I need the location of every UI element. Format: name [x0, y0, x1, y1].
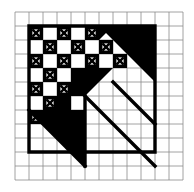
cross-cell: [87, 56, 98, 67]
figure-canvas: [0, 0, 194, 192]
cross-cell: [59, 56, 70, 67]
inner-diagonal-line: [85, 96, 155, 166]
cross-cell: [45, 42, 56, 53]
solid-cell: [57, 96, 71, 110]
solid-cell: [71, 68, 85, 82]
cross-cell: [73, 42, 84, 53]
cross-cell: [115, 56, 126, 67]
outer-diagonal-line: [113, 82, 155, 124]
cross-cell: [31, 56, 42, 67]
cross-cell: [45, 70, 56, 81]
cross-cell: [101, 42, 112, 53]
cross-cell: [45, 98, 56, 109]
cross-cell: [87, 28, 98, 39]
solid-cell: [71, 82, 85, 96]
grid-pattern-figure: [0, 0, 194, 192]
cross-cell: [31, 28, 42, 39]
cross-cell: [59, 28, 70, 39]
cross-cell: [59, 84, 70, 95]
cross-cell: [59, 112, 70, 123]
cross-cell: [31, 84, 42, 95]
